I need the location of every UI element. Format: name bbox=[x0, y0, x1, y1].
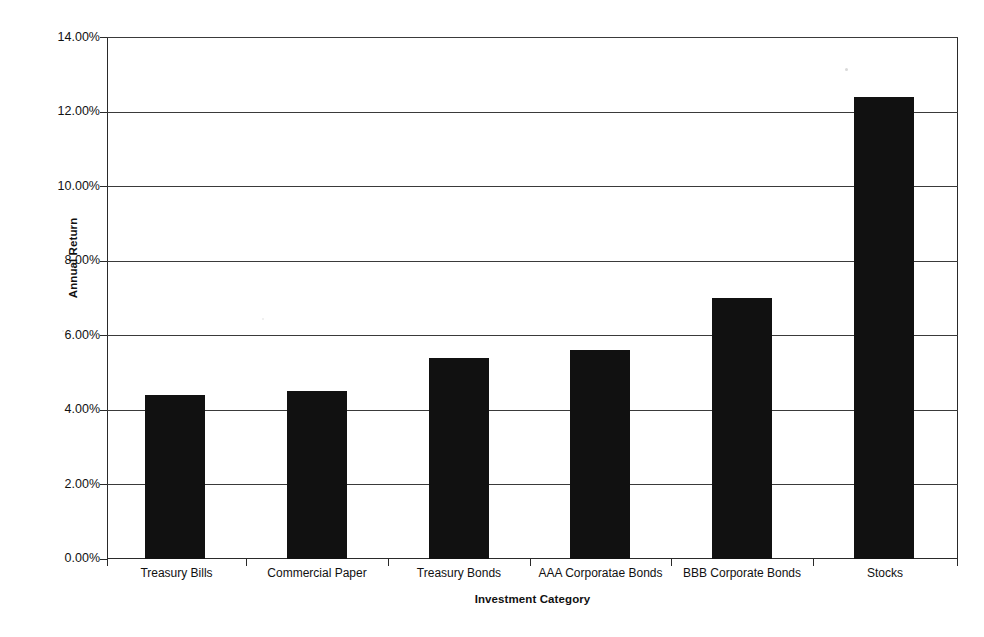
gridline-6 bbox=[107, 335, 958, 336]
y-tick-label: 10.00% bbox=[28, 180, 100, 193]
y-tick-label: 2.00% bbox=[28, 478, 100, 491]
y-tick-mark bbox=[100, 559, 107, 560]
y-tick-mark bbox=[100, 335, 107, 336]
bar-treasury-bills bbox=[145, 395, 205, 559]
bar-commercial-paper bbox=[287, 391, 347, 559]
x-axis-baseline bbox=[107, 558, 958, 559]
plot-right-border bbox=[957, 37, 958, 559]
y-tick-mark bbox=[100, 261, 107, 262]
y-tick-mark bbox=[100, 112, 107, 113]
x-tick-label-aaa-corporate-bonds: AAA Corporatae Bonds bbox=[530, 565, 671, 581]
y-tick-mark bbox=[100, 37, 107, 38]
x-tick-label-stocks: Stocks bbox=[813, 565, 957, 581]
plot-area bbox=[107, 37, 958, 559]
bar-stocks bbox=[854, 97, 914, 559]
gridline-8 bbox=[107, 261, 958, 262]
y-axis-tick-labels: 14.00% 12.00% 10.00% 8.00% 6.00% 4.00% 2… bbox=[20, 0, 100, 637]
y-tick-label: 12.00% bbox=[28, 105, 100, 118]
y-tick-mark bbox=[100, 410, 107, 411]
gridline-10 bbox=[107, 186, 958, 187]
gridline-2 bbox=[107, 484, 958, 485]
gridline-4 bbox=[107, 410, 958, 411]
x-axis-tick-labels: Treasury Bills Commercial Paper Treasury… bbox=[107, 565, 958, 585]
scan-speck bbox=[62, 330, 64, 332]
y-tick-label: 4.00% bbox=[28, 403, 100, 416]
x-tick-label-bbb-corporate-bonds: BBB Corporate Bonds bbox=[671, 565, 813, 581]
y-tick-label: 14.00% bbox=[28, 31, 100, 44]
x-axis-title: Investment Category bbox=[107, 593, 958, 605]
scan-speck bbox=[262, 318, 264, 320]
x-tick-label-treasury-bills: Treasury Bills bbox=[104, 565, 249, 581]
gridline-14 bbox=[107, 37, 958, 38]
bar-aaa-corporate-bonds bbox=[570, 350, 630, 559]
plot-left-border bbox=[107, 37, 108, 559]
y-tick-mark bbox=[100, 484, 107, 485]
x-tick-label-commercial-paper: Commercial Paper bbox=[246, 565, 388, 581]
bar-treasury-bonds bbox=[429, 358, 489, 559]
bar-bbb-corporate-bonds bbox=[712, 298, 772, 559]
bar-chart-figure: Annual Return 14.00% 12.00% 10.00% 8.00%… bbox=[0, 0, 984, 637]
gridline-12 bbox=[107, 112, 958, 113]
scan-speck bbox=[845, 68, 848, 71]
x-tick-label-treasury-bonds: Treasury Bonds bbox=[388, 565, 530, 581]
y-tick-label: 6.00% bbox=[28, 329, 100, 342]
y-tick-label: 8.00% bbox=[28, 254, 100, 267]
y-tick-label: 0.00% bbox=[28, 552, 100, 565]
y-tick-mark bbox=[100, 186, 107, 187]
